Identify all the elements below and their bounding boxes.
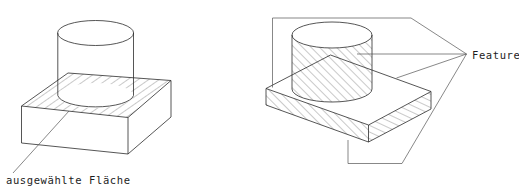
right-leader-plate-side [397,54,467,78]
left-plate-top-hatching [15,65,185,130]
left-figure-group [13,21,185,174]
right-plate-side-hatching [362,85,440,150]
technical-drawing-page: ausgewählte Fläche Feature [0,0,519,195]
drawing-canvas [0,0,519,195]
feature-label: Feature [472,49,519,61]
left-cylinder-top-ellipse [58,21,134,46]
right-figure-group [260,18,467,164]
selected-face-label: ausgewählte Fläche [6,174,131,186]
